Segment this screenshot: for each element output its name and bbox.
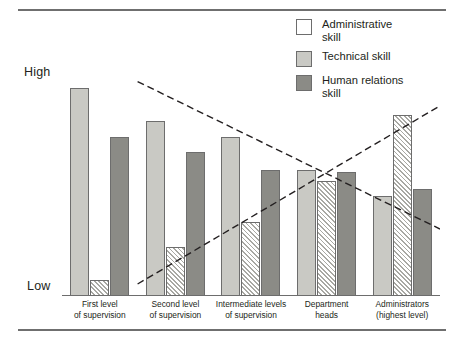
x-axis-label-4: Departmentheads [289, 299, 365, 321]
bottom-rule [18, 329, 446, 331]
bar-human [261, 170, 280, 295]
bar-group-2 [138, 75, 214, 295]
bar-technical [70, 88, 89, 295]
bar-group-4 [289, 75, 365, 295]
bar-admin [90, 280, 109, 295]
x-axis-label-3: Intermediate levelsof supervision [213, 299, 289, 321]
x-axis-category-labels: First levelof supervisionSecond levelof … [62, 299, 440, 321]
bar-technical [221, 137, 240, 295]
bar-human [110, 137, 129, 295]
bar-admin [166, 247, 185, 295]
legend-label-administrative: Administrative skill [322, 18, 392, 43]
legend-label-technical: Technical skill [322, 50, 390, 63]
plot-inner [62, 75, 440, 295]
bar-human [337, 172, 356, 295]
bar-human [413, 189, 432, 295]
top-rule [18, 9, 446, 11]
y-axis-high-label: High [24, 65, 51, 79]
legend-swatch-technical-icon [296, 51, 312, 67]
figure-container: High Low First levelof supervisionSecond… [0, 0, 460, 344]
x-axis-label-5: Administrators(highest level) [364, 299, 440, 321]
bar-technical [373, 196, 392, 295]
y-axis-low-label: Low [27, 279, 51, 293]
legend-swatch-human-icon [296, 75, 312, 91]
legend-label-human: Human relations skill [322, 74, 403, 99]
legend-item-administrative: Administrative skill [296, 18, 456, 43]
bar-group-3 [213, 75, 289, 295]
bar-group-5 [364, 75, 440, 295]
legend-item-technical: Technical skill [296, 50, 456, 67]
legend-item-human: Human relations skill [296, 74, 456, 99]
x-axis-label-1: First levelof supervision [62, 299, 138, 321]
bar-human [186, 152, 205, 295]
bar-admin [317, 181, 336, 295]
x-axis-label-2: Second levelof supervision [138, 299, 214, 321]
bar-admin [393, 115, 412, 295]
baseline-axis [62, 295, 440, 296]
bar-group-1 [62, 75, 138, 295]
bar-admin [241, 222, 260, 295]
legend: Administrative skillTechnical skillHuman… [296, 18, 456, 106]
legend-swatch-administrative-icon [296, 19, 312, 35]
bar-technical [297, 170, 316, 295]
bar-groups [62, 75, 440, 295]
bar-technical [146, 121, 165, 295]
